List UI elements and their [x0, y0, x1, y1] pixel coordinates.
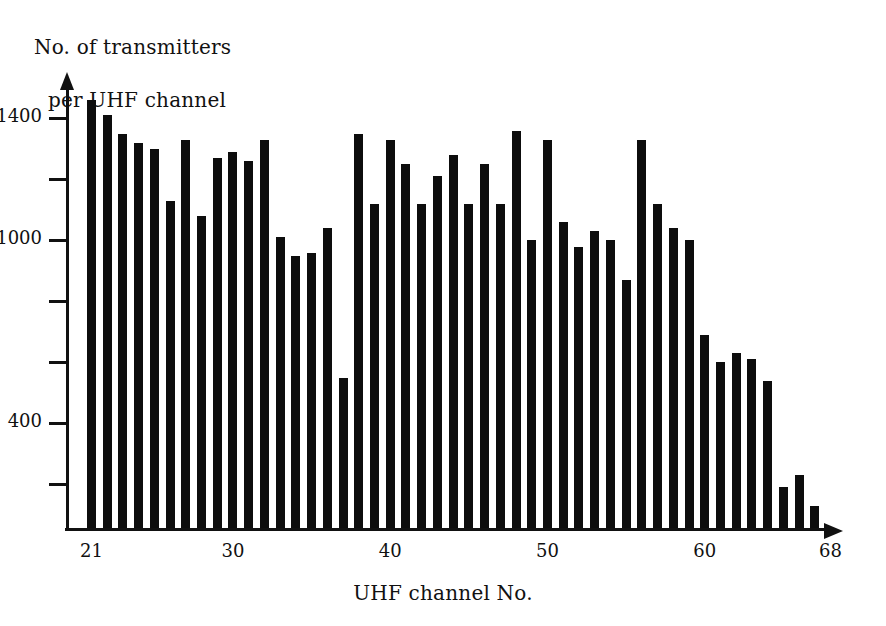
bar-channel-53: [590, 231, 599, 528]
bar-channel-59: [685, 240, 694, 528]
bar-channel-60: [700, 335, 709, 528]
bar-channel-50: [543, 140, 552, 528]
bar-channel-47: [496, 204, 505, 528]
y-tick-mark: [49, 483, 67, 486]
x-tick-label-50: 50: [536, 540, 559, 561]
bar-channel-52: [574, 247, 583, 528]
chart-figure: No. of transmitters per UHF channel 1400…: [0, 0, 886, 626]
bar-channel-23: [118, 134, 127, 528]
bar-channel-45: [464, 204, 473, 528]
bar-channel-63: [747, 359, 756, 528]
bar-channel-36: [323, 228, 332, 528]
y-axis-arrowhead-icon: [60, 72, 74, 90]
x-tick-label-30: 30: [222, 540, 245, 561]
bar-channel-41: [401, 164, 410, 528]
y-axis-line: [66, 87, 69, 528]
bar-channel-29: [213, 158, 222, 528]
y-axis-title-line-1: No. of transmitters: [34, 34, 231, 60]
bar-channel-58: [669, 228, 678, 528]
bar-channel-40: [386, 140, 395, 528]
bar-channel-46: [480, 164, 489, 528]
bar-channel-26: [166, 201, 175, 528]
bar-channel-27: [181, 140, 190, 528]
bar-channel-62: [732, 353, 741, 528]
bar-channel-54: [606, 240, 615, 528]
bar-channel-49: [527, 240, 536, 528]
bar-channel-48: [512, 131, 521, 528]
bar-channel-38: [354, 134, 363, 528]
bar-channel-25: [150, 149, 159, 528]
bar-channel-33: [276, 237, 285, 528]
bar-channel-30: [228, 152, 237, 528]
bar-channel-66: [795, 475, 804, 528]
y-tick-label: 400: [8, 410, 42, 431]
bar-channel-37: [339, 378, 348, 528]
y-tick-mark: [49, 239, 67, 242]
x-axis-line: [65, 528, 827, 531]
bar-channel-39: [370, 204, 379, 528]
y-tick-label: 1400: [0, 105, 42, 126]
bar-channel-57: [653, 204, 662, 528]
bar-channel-43: [433, 176, 442, 528]
bar-channel-31: [244, 161, 253, 528]
bar-channel-56: [637, 140, 646, 528]
bar-channel-34: [291, 256, 300, 528]
bar-channel-28: [197, 216, 206, 528]
y-tick-mark: [49, 361, 67, 364]
y-tick-mark: [49, 117, 67, 120]
bar-channel-61: [716, 362, 725, 528]
y-tick-mark: [49, 178, 67, 181]
x-tick-label-60: 60: [693, 540, 716, 561]
bar-channel-51: [559, 222, 568, 528]
bar-channel-32: [260, 140, 269, 528]
bar-channel-44: [449, 155, 458, 528]
bar-channel-22: [103, 115, 112, 528]
bar-channel-55: [622, 280, 631, 528]
bar-channel-64: [763, 381, 772, 528]
bar-channel-67: [810, 506, 819, 528]
bar-channel-65: [779, 487, 788, 528]
bar-channel-35: [307, 253, 316, 528]
x-axis-title: UHF channel No.: [0, 581, 886, 605]
bar-channel-21: [87, 100, 96, 528]
bar-channel-24: [134, 143, 143, 528]
bar-channel-42: [417, 204, 426, 528]
y-tick-mark: [49, 300, 67, 303]
x-tick-label-68: 68: [819, 540, 842, 561]
y-tick-label: 1000: [0, 227, 42, 248]
y-tick-mark: [49, 422, 67, 425]
x-tick-label-21: 21: [80, 540, 103, 561]
x-tick-label-40: 40: [379, 540, 402, 561]
bar-series: [82, 88, 840, 528]
plot-area: 14001000400 213040506068: [82, 88, 840, 528]
